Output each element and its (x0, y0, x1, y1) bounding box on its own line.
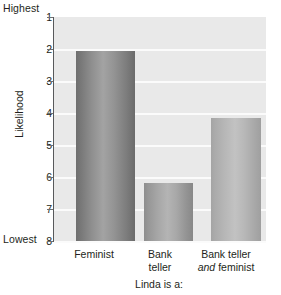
category-label-line: Bank teller (187, 248, 265, 261)
x-axis-title: Linda is a: (53, 278, 265, 290)
x-axis-category-labels: Feminist Bank teller Bank teller and fem… (53, 248, 265, 282)
gridline (54, 241, 266, 243)
category-label-line: teller (129, 261, 191, 274)
bar-bank-teller-and-feminist (211, 118, 261, 241)
plot-area (53, 17, 266, 242)
category-label-feminist: Feminist (53, 248, 135, 261)
category-label-rest: feminist (215, 261, 254, 273)
bar-feminist (76, 51, 135, 241)
category-label-bank-teller-and-feminist: Bank teller and feminist (187, 248, 265, 273)
bar-bank-teller (144, 183, 193, 241)
y-axis-lowest-label: Lowest (3, 233, 37, 245)
italic-and: and (198, 261, 216, 273)
category-label-line: Bank (129, 248, 191, 261)
category-label-bank-teller: Bank teller (129, 248, 191, 273)
y-axis-highest-label: Highest (3, 2, 39, 14)
category-label-line-italic: and feminist (187, 261, 265, 274)
y-axis-title: Likelihood (13, 69, 25, 159)
bar-series (54, 17, 266, 241)
category-label-line: Feminist (53, 248, 135, 261)
y-tick-label: 7 (12, 204, 52, 214)
likelihood-bar-chart: Highest Lowest Likelihood 12345678 Femin… (0, 0, 281, 295)
y-tick-label: 2 (12, 44, 52, 54)
y-tick-label: 6 (12, 172, 52, 182)
